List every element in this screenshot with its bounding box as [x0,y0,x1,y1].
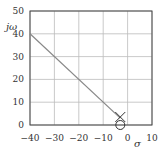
x-tick-label: 10 [146,133,158,143]
y-tick-label: 30 [13,52,25,62]
y-tick-label: 0 [18,120,24,130]
y-axis-label: jω [4,21,17,32]
x-tick-label: −40 [21,133,40,143]
series-root-locus [30,34,120,118]
x-tick-label: −20 [69,133,88,143]
x-tick-label: −10 [94,133,113,143]
x-tick-label: −30 [45,133,64,143]
x-axis-label: σ [134,138,142,149]
x-tick-label: 0 [125,133,131,143]
y-tick-label: 10 [13,97,25,107]
plot-frame [30,11,152,125]
y-tick-label: 50 [13,6,25,16]
locus-line [30,34,120,118]
grid [30,11,152,125]
y-tick-label: 20 [13,74,25,84]
root-locus-chart: 01020304050 −40−30−20−10010 jω σ [0,0,161,155]
